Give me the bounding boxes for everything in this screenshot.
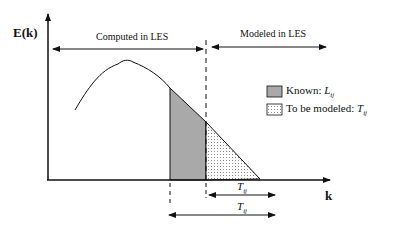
x-axis-label: k bbox=[325, 188, 332, 204]
computed-label: Computed in LES bbox=[96, 31, 168, 42]
small-T-label: Tij bbox=[237, 180, 247, 195]
legend-known-swatch bbox=[267, 86, 282, 97]
modeled-label: Modeled in LES bbox=[240, 28, 306, 39]
large-T-label: Tij bbox=[237, 200, 247, 215]
legend-tobe-swatch bbox=[267, 104, 282, 115]
to-be-modeled-region bbox=[206, 122, 260, 180]
L-ij-symbol: Lij bbox=[324, 84, 334, 96]
spectrum-curve bbox=[75, 60, 170, 110]
known-region bbox=[170, 88, 206, 180]
legend-tobe-label: To be modeled: Tij bbox=[286, 102, 367, 117]
legend-known-label: Known: Lij bbox=[286, 84, 334, 99]
T-ij-symbol: Tij bbox=[357, 102, 367, 114]
y-axis-label: E(k) bbox=[13, 25, 38, 41]
